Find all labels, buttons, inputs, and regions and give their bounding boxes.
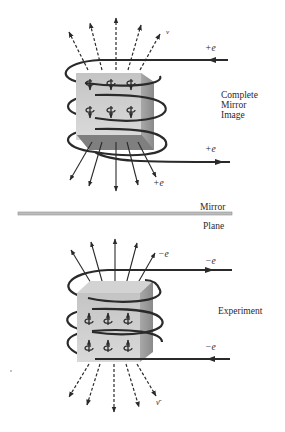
current-out-arrow-icon <box>215 159 224 165</box>
top-current-in-label: +e <box>205 43 216 53</box>
top-caption-line-2: Mirror <box>221 100 246 111</box>
top-emitted-electron-label: +e <box>153 178 164 188</box>
parity-violation-diagram <box>0 0 285 432</box>
plane-label: Plane <box>203 221 224 232</box>
antineutrino-arrows-down <box>69 364 156 412</box>
top-neutrino-label: ν <box>166 27 169 37</box>
bottom-current-in-label: −e <box>205 342 216 352</box>
stray-mark <box>10 370 12 372</box>
top-caption-line-1: Complete <box>221 90 258 101</box>
bottom-caption: Experiment <box>218 306 262 317</box>
current-out-arrow-icon <box>205 267 214 273</box>
antineutrino-label: ν̄ <box>156 398 160 408</box>
bottom-current-out-label: −e <box>205 256 216 266</box>
top-caption-line-3: Image <box>221 110 245 121</box>
mirror-label: Mirror <box>200 202 225 213</box>
current-in-arrow-icon <box>208 57 216 63</box>
current-in-arrow-icon <box>207 356 215 362</box>
bottom-emitted-electron-label: −e <box>158 249 169 259</box>
top-current-out-label: +e <box>205 144 216 154</box>
experiment-figure <box>10 239 232 412</box>
electron-arrows-up <box>71 239 155 288</box>
